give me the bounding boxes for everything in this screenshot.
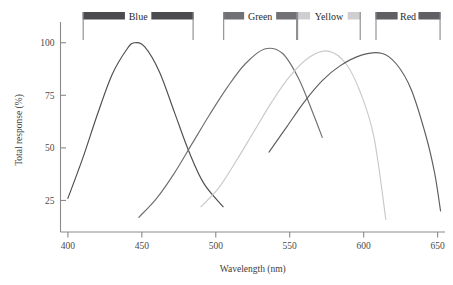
x-tick-label: 500 <box>209 241 224 251</box>
band-label: Green <box>248 11 272 22</box>
y-tick-label: 25 <box>45 196 55 206</box>
band-label: Blue <box>129 11 148 22</box>
x-axis-title: Wavelength (nm) <box>220 264 286 275</box>
y-tick-label: 100 <box>40 38 55 48</box>
spectral-response-chart: 255075100 400450500550600650 BlueGreenYe… <box>0 0 453 285</box>
band-label: Yellow <box>315 11 344 22</box>
x-tick-label: 550 <box>283 241 298 251</box>
y-tick-label: 75 <box>45 91 55 101</box>
band-label: Red <box>400 11 416 22</box>
y-axis-title: Total response (%) <box>14 94 25 166</box>
x-tick-label: 600 <box>357 241 372 251</box>
x-tick-label: 450 <box>135 241 150 251</box>
y-tick-label: 50 <box>45 143 55 153</box>
x-tick-label: 650 <box>430 241 445 251</box>
x-tick-label: 400 <box>61 241 76 251</box>
